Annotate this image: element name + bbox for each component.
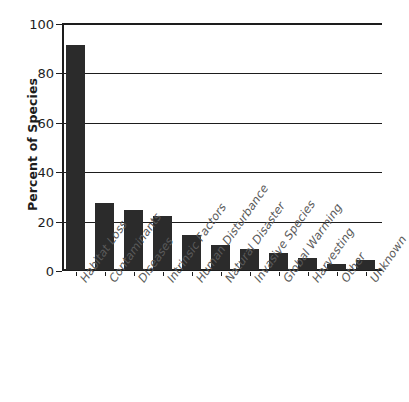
y-tick-mark-20: [56, 222, 62, 223]
y-tick-label-80: 80: [12, 67, 54, 80]
gridline-80: [62, 73, 382, 74]
y-tick-label-100: 100: [12, 18, 54, 31]
y-tick-label-20: 20: [12, 216, 54, 229]
y-tick-label-60: 60: [12, 117, 54, 130]
bar: [66, 45, 85, 270]
gridline-100: [62, 23, 382, 25]
y-axis-spine: [62, 24, 64, 271]
y-tick-mark-80: [56, 73, 62, 74]
y-tick-label-0: 0: [12, 265, 54, 278]
gridline-40: [62, 172, 382, 173]
y-tick-mark-60: [56, 123, 62, 124]
gridline-60: [62, 123, 382, 124]
y-axis-tick-labels: 100806040200: [10, 24, 54, 271]
y-tick-label-40: 40: [12, 166, 54, 179]
x-axis-category-labels: Habitat LossContaminantsDiseasesIntrinsi…: [62, 271, 392, 402]
y-tick-mark-100: [56, 24, 62, 25]
y-tick-mark-40: [56, 172, 62, 173]
